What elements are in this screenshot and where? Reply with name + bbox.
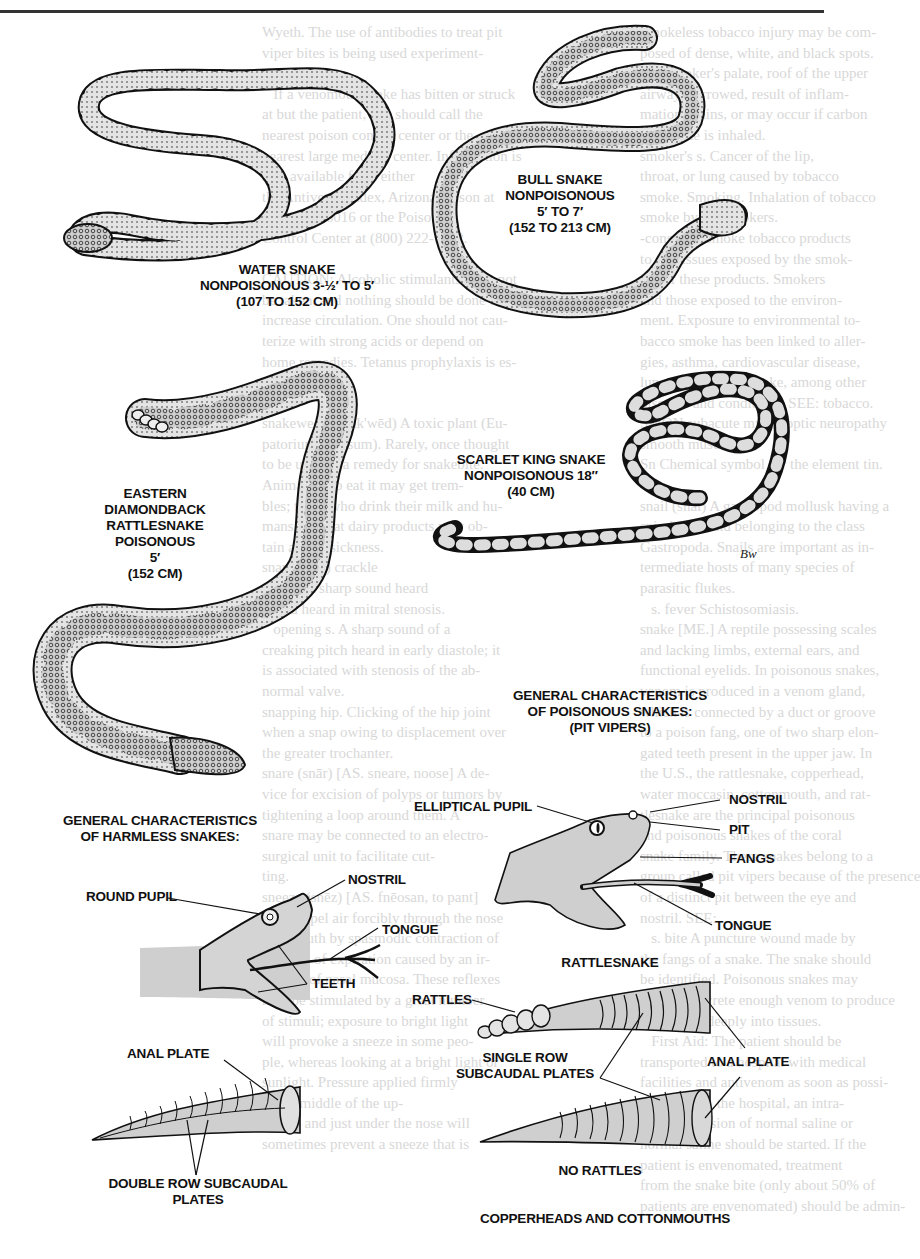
eastern-diamondback-status: POISONOUS bbox=[95, 534, 215, 550]
bull-snake-length: 5′ TO 7′ bbox=[490, 204, 630, 220]
scarlet-king-snake-metric: (40 CM) bbox=[446, 484, 616, 500]
water-snake-status: NONPOISONOUS 3-½′ TO 5′ bbox=[170, 278, 404, 294]
harmless-anal-plate-label: ANAL PLATE bbox=[127, 1046, 209, 1062]
scarlet-king-snake-status: NONPOISONOUS 18″ bbox=[446, 468, 616, 484]
single-row-subcaudal-label: SINGLE ROW SUBCAUDAL PLATES bbox=[445, 1050, 605, 1082]
harmless-title-line2: OF HARMLESS SNAKES: bbox=[40, 829, 280, 845]
double-row-subcaudal-label: DOUBLE ROW SUBCAUDAL PLATES bbox=[98, 1176, 298, 1208]
pit-viper-head-illustration bbox=[495, 800, 722, 929]
harmless-title-line1: GENERAL CHARACTERISTICS bbox=[40, 813, 280, 829]
double-row-line1: DOUBLE ROW SUBCAUDAL bbox=[98, 1176, 298, 1192]
teeth-label: TEETH bbox=[312, 976, 355, 992]
scarlet-king-snake-name: SCARLET KING SNAKE bbox=[446, 452, 616, 468]
no-rattles-label: NO RATTLES bbox=[540, 1163, 660, 1179]
eastern-diamondback-name-2: DIAMONDBACK bbox=[95, 502, 215, 518]
rattles-icon bbox=[478, 1005, 550, 1038]
water-snake-illustration bbox=[64, 78, 384, 252]
rattles-label: RATTLES bbox=[412, 992, 472, 1008]
elliptical-pupil-label: ELLIPTICAL PUPIL bbox=[414, 799, 532, 815]
poisonous-tongue-label: TONGUE bbox=[715, 918, 771, 934]
bull-snake-metric: (152 TO 213 CM) bbox=[490, 220, 630, 236]
harmless-tail-illustration bbox=[92, 1060, 300, 1175]
eastern-diamondback-length: 5′ bbox=[95, 550, 215, 566]
single-row-line2: SUBCAUDAL PLATES bbox=[445, 1066, 605, 1082]
pit-label: PIT bbox=[729, 822, 749, 838]
rattlesnake-head-caption: RATTLESNAKE bbox=[550, 955, 670, 971]
poisonous-nostril-label: NOSTRIL bbox=[729, 792, 787, 808]
bull-snake-name: BULL SNAKE bbox=[490, 172, 630, 188]
poisonous-title-line3: (PIT VIPERS) bbox=[490, 720, 730, 736]
round-pupil-label: ROUND PUPIL bbox=[86, 889, 177, 905]
poisonous-title-line2: OF POISONOUS SNAKES: bbox=[490, 704, 730, 720]
rattlesnake-tail-illustration bbox=[472, 982, 745, 1048]
copperheads-cottonmouths-caption: COPPERHEADS AND COTTONMOUTHS bbox=[460, 1211, 750, 1227]
poisonous-title-line1: GENERAL CHARACTERISTICS bbox=[490, 688, 730, 704]
water-snake-name: WATER SNAKE bbox=[170, 262, 404, 278]
fangs-label: FANGS bbox=[729, 851, 775, 867]
harmless-tongue-label: TONGUE bbox=[382, 922, 438, 938]
eastern-diamondback-name-1: EASTERN bbox=[95, 486, 215, 502]
bull-snake-label: BULL SNAKE NONPOISONOUS 5′ TO 7′ (152 TO… bbox=[490, 172, 630, 236]
water-snake-label: WATER SNAKE NONPOISONOUS 3-½′ TO 5′ (107… bbox=[170, 262, 404, 310]
poisonous-section-title: GENERAL CHARACTERISTICS OF POISONOUS SNA… bbox=[490, 688, 730, 736]
harmless-section-title: GENERAL CHARACTERISTICS OF HARMLESS SNAK… bbox=[40, 813, 280, 845]
water-snake-metric: (107 TO 152 CM) bbox=[170, 294, 404, 310]
eastern-diamondback-metric: (152 CM) bbox=[95, 566, 215, 582]
scarlet-king-snake-label: SCARLET KING SNAKE NONPOISONOUS 18″ (40 … bbox=[446, 452, 616, 500]
eastern-diamondback-label: EASTERN DIAMONDBACK RATTLESNAKE POISONOU… bbox=[95, 486, 215, 582]
bull-snake-status: NONPOISONOUS bbox=[490, 188, 630, 204]
double-row-line2: PLATES bbox=[98, 1192, 298, 1208]
eastern-diamondback-name-3: RATTLESNAKE bbox=[95, 518, 215, 534]
single-row-line1: SINGLE ROW bbox=[445, 1050, 605, 1066]
poisonous-anal-plate-label: ANAL PLATE bbox=[707, 1054, 789, 1070]
artist-signature: Bw bbox=[740, 546, 757, 561]
harmless-nostril-label: NOSTRIL bbox=[348, 872, 406, 888]
